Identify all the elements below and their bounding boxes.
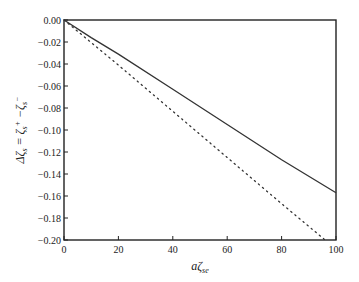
x-tick-label: 100 — [329, 244, 344, 255]
x-tick-label: 40 — [168, 244, 178, 255]
y-axis-label: Δζs = ζs+ −ζs− — [13, 96, 29, 164]
y-tick-label: −0.12 — [38, 147, 61, 158]
line-chart: 0204060801000.00−0.02−0.04−0.06−0.08−0.1… — [0, 0, 359, 282]
y-tick-label: −0.08 — [38, 103, 61, 114]
x-tick-label: 80 — [277, 244, 287, 255]
y-tick-label: −0.14 — [38, 169, 61, 180]
x-tick-label: 0 — [62, 244, 67, 255]
y-tick-label: −0.02 — [38, 37, 61, 48]
y-tick-label: −0.20 — [38, 235, 61, 246]
y-tick-label: −0.16 — [38, 191, 61, 202]
series-solid — [64, 20, 336, 193]
y-tick-label: −0.10 — [38, 125, 61, 136]
x-tick-label: 20 — [113, 244, 123, 255]
x-tick-label: 60 — [222, 244, 232, 255]
plot-frame — [64, 20, 336, 240]
chart: 0204060801000.00−0.02−0.04−0.06−0.08−0.1… — [0, 0, 359, 282]
y-tick-label: 0.00 — [44, 15, 62, 26]
x-axis-label: aζse — [191, 259, 209, 275]
series-dotted — [64, 20, 325, 240]
y-tick-label: −0.04 — [38, 59, 61, 70]
y-tick-label: −0.18 — [38, 213, 61, 224]
y-tick-label: −0.06 — [38, 81, 61, 92]
